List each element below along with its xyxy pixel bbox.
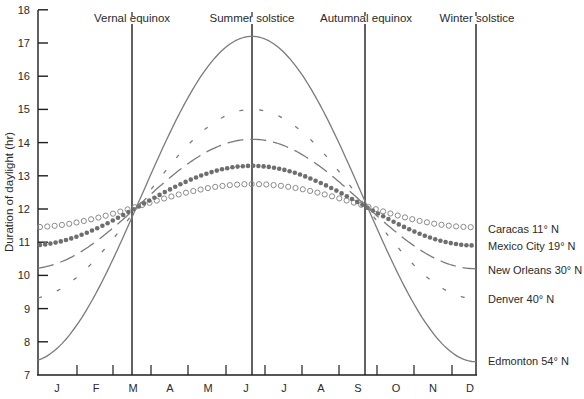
series-point [293, 185, 298, 190]
ytick-10: 10 [18, 269, 30, 281]
series-point [282, 168, 287, 173]
series-point [315, 190, 320, 195]
legend-caracas: Caracas 11° N [488, 223, 559, 235]
autumnal-equinox-label: Autumnal equinox [320, 12, 412, 24]
series-point [215, 168, 220, 173]
ytick-8: 8 [24, 336, 30, 348]
winter-solstice-label: Winter solstice [440, 12, 515, 24]
series-point [272, 165, 277, 170]
series-point [38, 243, 43, 248]
series-point [410, 217, 415, 222]
series-point [264, 182, 269, 187]
series-point [308, 176, 313, 181]
series-point [209, 170, 214, 175]
series-point [424, 220, 429, 225]
x-ticks [77, 365, 452, 375]
series-point [176, 192, 181, 197]
series-point [261, 164, 266, 169]
series-point [64, 238, 69, 243]
x-tick-labels: J F M A M J J A S O N D [54, 382, 474, 394]
series-point [287, 169, 292, 174]
series-point [459, 242, 464, 247]
ytick-16: 16 [18, 70, 30, 82]
series-point [147, 198, 152, 203]
month-sep: S [354, 382, 361, 394]
series-point [298, 172, 303, 177]
series-point [395, 213, 400, 218]
series-point [339, 191, 344, 196]
series-point [67, 221, 72, 226]
series-point [246, 164, 251, 169]
month-mar: M [128, 382, 137, 394]
series-point [464, 243, 469, 248]
series-point [189, 177, 194, 182]
month-jul: J [281, 382, 287, 394]
series-point [79, 233, 84, 238]
series-point [183, 180, 188, 185]
series-point [191, 188, 196, 193]
ytick-18: 18 [18, 4, 30, 16]
series-point [43, 242, 48, 247]
series-point [402, 215, 407, 220]
series-point [198, 187, 203, 192]
month-jan: J [54, 382, 60, 394]
series-point [241, 164, 246, 169]
month-aug: A [317, 382, 325, 394]
series-point [329, 194, 334, 199]
series-point [277, 166, 282, 171]
series-point [157, 193, 162, 198]
series-point [256, 182, 261, 187]
series-point [116, 216, 121, 221]
series-point [438, 238, 443, 243]
series-point [300, 187, 305, 192]
series-point [59, 239, 64, 244]
series-point [417, 218, 422, 223]
ytick-13: 13 [18, 170, 30, 182]
series-point [204, 171, 209, 176]
series-point [178, 182, 183, 187]
series-point [432, 221, 437, 226]
series-point [329, 186, 334, 191]
series-point [81, 218, 86, 223]
series-point [100, 223, 105, 228]
series-point [428, 235, 433, 240]
series-point [105, 221, 110, 226]
series-point [446, 223, 451, 228]
series-point [454, 242, 459, 247]
series-point [337, 196, 342, 201]
series-point [293, 171, 298, 176]
ytick-7: 7 [24, 369, 30, 381]
series-point [355, 200, 360, 205]
series-point [242, 182, 247, 187]
series-point [110, 211, 115, 216]
series-point [350, 197, 355, 202]
y-ticks [38, 10, 48, 342]
series-point [121, 213, 126, 218]
ytick-15: 15 [18, 103, 30, 115]
series-point [199, 173, 204, 178]
series-point [52, 223, 57, 228]
series-point [227, 183, 232, 188]
series-point [230, 165, 235, 170]
series-point [96, 215, 101, 220]
series-point [454, 224, 459, 229]
series-point [194, 175, 199, 180]
series-point [45, 224, 50, 229]
series-point [386, 217, 391, 222]
ytick-12: 12 [18, 203, 30, 215]
ytick-9: 9 [24, 303, 30, 315]
month-dec: D [466, 382, 474, 394]
series-point [449, 241, 454, 246]
y-tick-labels: 7 8 9 10 11 12 13 14 15 16 17 18 [18, 4, 30, 381]
series-point [468, 225, 473, 230]
series-point [183, 190, 188, 195]
series-point [69, 236, 74, 241]
series-point [85, 230, 90, 235]
series-point [381, 209, 386, 214]
series-point [381, 214, 386, 219]
series-point [251, 164, 256, 169]
ytick-17: 17 [18, 37, 30, 49]
ytick-11: 11 [19, 236, 30, 248]
series-point [286, 184, 291, 189]
series-point [168, 187, 173, 192]
